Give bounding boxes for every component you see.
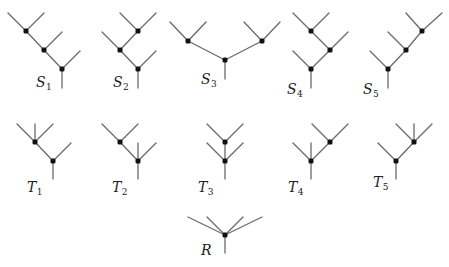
tree-label-subscript: 1 [37,187,43,197]
tree-edge [225,143,243,161]
tree-vertex [420,29,425,34]
tree-edge [8,13,26,31]
tree-edge [388,50,406,69]
tree-edge [102,32,120,50]
tree-edge [414,124,432,142]
tree-edge [207,217,225,235]
tree-label: S5 [363,81,379,99]
tree-label: S3 [201,71,217,89]
tree-vertex [394,159,399,164]
tree-vertex [33,140,38,145]
tree-label-subscript: 3 [208,187,214,197]
tree-edge [120,13,138,31]
tree-edge [62,51,80,69]
tree-edge [120,124,138,142]
tree-vertex [186,39,191,44]
tree-label: R [200,242,212,258]
tree-label: T3 [198,179,214,197]
tree-label: S2 [113,74,129,92]
tree-label-subscript: 5 [373,89,379,99]
tree-edge [378,143,396,161]
tree-label-subscript: 2 [122,187,128,197]
tree-vertex [386,67,391,72]
tree-vertex [223,58,228,63]
tree-edge [311,142,330,161]
tree-t3: T3 [198,124,243,197]
tree-label-subscript: 4 [298,187,304,197]
tree-vertex [51,159,56,164]
tree-edge [35,142,53,161]
tree-edge [311,50,330,69]
tree-edge [138,143,156,161]
tree-edge [35,124,53,142]
tree-edge [44,50,62,69]
tree-t4: T4 [288,124,348,197]
tree-s5: S5 [363,13,442,99]
tree-vertex [60,67,65,72]
tree-edge [207,124,225,142]
tree-edge [170,22,188,41]
tree-edge [225,217,262,235]
tree-label: T1 [27,179,43,197]
tree-vertex [309,67,314,72]
tree-edge [311,31,330,50]
tree-edge [370,51,388,69]
tree-edge [120,50,138,69]
tree-t2: T2 [102,124,156,197]
tree-label: T5 [373,174,389,192]
tree-vertex [24,29,29,34]
tree-diagram-canvas: S1S2S3S4S5T1T2T3T4T5R [0,0,449,267]
tree-vertex [223,233,228,238]
tree-label: T4 [288,179,304,197]
tree-edge [188,41,225,60]
tree-edge [138,13,156,31]
tree-edge [312,124,330,142]
tree-label-subscript: 5 [383,182,389,192]
tree-vertex [309,159,314,164]
tree-edge [396,124,414,142]
tree-label: S1 [36,74,52,92]
tree-edge [26,31,44,50]
tree-edge [44,32,62,50]
tree-vertex [136,67,141,72]
tree-edge [188,22,206,41]
tree-edge [293,13,311,31]
tree-label-subscript: 1 [46,82,52,92]
tree-t1: T1 [17,124,71,197]
tree-edge [388,32,406,50]
tree-label-subscript: 4 [297,89,303,99]
tree-edge [138,51,156,69]
tree-vertex [328,140,333,145]
tree-edge [120,142,138,161]
tree-edge [225,124,243,142]
tree-s3: S3 [170,22,280,89]
tree-vertex [42,48,47,53]
tree-edge [225,217,243,235]
tree-vertex [118,140,123,145]
tree-edge [422,13,442,31]
tree-label-subscript: 3 [211,79,217,89]
tree-edge [53,143,71,161]
tree-vertex [118,48,123,53]
tree-vertex [223,140,228,145]
tree-vertex [136,159,141,164]
tree-vertex [309,29,314,34]
tree-edge [293,143,311,161]
tree-edge [406,31,422,50]
tree-edge [207,143,225,161]
tree-edge [102,124,120,142]
tree-vertex [328,48,333,53]
tree-edge [225,41,262,60]
tree-s4: S4 [287,13,348,99]
tree-edge [330,32,348,50]
tree-edge [120,31,138,50]
tree-vertex [260,39,265,44]
tree-edge [330,124,348,142]
tree-edge [262,22,280,41]
tree-label-subscript: 2 [123,82,129,92]
tree-s1: S1 [8,13,80,92]
tree-vertex [404,48,409,53]
tree-edge [188,217,225,235]
tree-s2: S2 [102,13,156,92]
tree-r: R [188,217,262,258]
